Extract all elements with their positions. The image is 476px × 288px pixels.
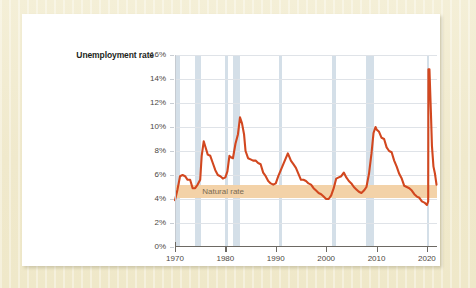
y-axis-line bbox=[175, 55, 176, 247]
y-tick-mark bbox=[170, 247, 174, 248]
x-tick-label: 2000 bbox=[309, 255, 343, 263]
y-tick-label: 4% bbox=[144, 195, 166, 203]
x-tick-label: 2020 bbox=[410, 255, 444, 263]
x-tick-label: 1980 bbox=[208, 255, 242, 263]
y-tick-label: 12% bbox=[144, 99, 166, 107]
y-tick-mark bbox=[170, 127, 174, 128]
y-tick-label: 14% bbox=[144, 75, 166, 83]
y-axis-title: Unemployment rate bbox=[76, 50, 154, 60]
y-tick-mark bbox=[170, 103, 174, 104]
x-tick-mark bbox=[276, 247, 277, 252]
x-tick-mark bbox=[225, 247, 226, 252]
y-tick-label: 8% bbox=[144, 147, 166, 155]
series-layer bbox=[175, 55, 437, 247]
chart-card: Unemployment rate 0%2%4%6%8%10%12%14%16%… bbox=[22, 14, 440, 266]
y-tick-mark bbox=[170, 79, 174, 80]
x-tick-mark bbox=[175, 247, 176, 252]
x-tick-label: 1990 bbox=[259, 255, 293, 263]
x-tick-label: 2010 bbox=[360, 255, 394, 263]
y-tick-label: 6% bbox=[144, 171, 166, 179]
y-tick-mark bbox=[170, 199, 174, 200]
x-tick-mark bbox=[377, 247, 378, 252]
x-axis-line bbox=[175, 246, 437, 247]
y-tick-mark bbox=[170, 223, 174, 224]
y-tick-label: 16% bbox=[144, 51, 166, 59]
series-line-unemployment-rate bbox=[175, 69, 437, 205]
y-tick-mark bbox=[170, 175, 174, 176]
y-tick-label: 2% bbox=[144, 219, 166, 227]
plot-area: 0%2%4%6%8%10%12%14%16%Natural rate197019… bbox=[175, 55, 437, 247]
y-tick-label: 10% bbox=[144, 123, 166, 131]
y-tick-mark bbox=[170, 55, 174, 56]
x-tick-mark bbox=[326, 247, 327, 252]
screenshot-root: Unemployment rate 0%2%4%6%8%10%12%14%16%… bbox=[0, 0, 476, 288]
x-tick-label: 1970 bbox=[158, 255, 192, 263]
page-title: Unemployment rate bbox=[50, 50, 154, 61]
x-tick-mark bbox=[427, 247, 428, 252]
y-tick-label: 0% bbox=[144, 243, 166, 251]
y-tick-mark bbox=[170, 151, 174, 152]
